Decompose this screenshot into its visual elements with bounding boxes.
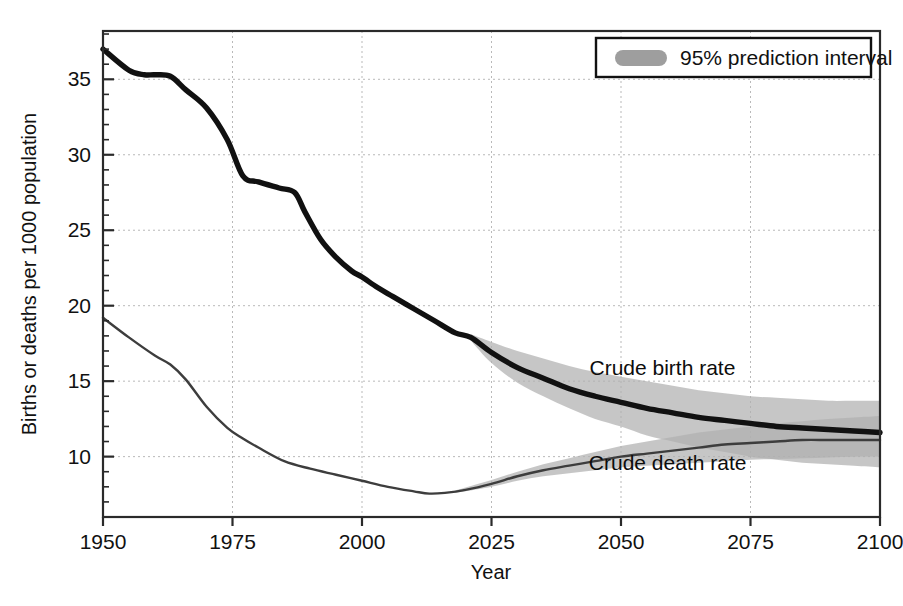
x-axis-title: Year [471, 561, 512, 583]
y-tick-label: 15 [68, 369, 91, 392]
x-tick-label: 1975 [209, 530, 256, 553]
x-tick-label: 1950 [80, 530, 127, 553]
legend-label-prediction-interval: 95% prediction interval [680, 46, 892, 69]
y-tick-label: 10 [68, 445, 91, 468]
y-axis-title: Births or deaths per 1000 population [18, 113, 40, 435]
chart-background [0, 0, 903, 606]
crude-birth-death-rate-chart: 1950197520002025205020752100 10152025303… [0, 0, 903, 606]
annotation-crude-death-rate: Crude death rate [589, 451, 747, 474]
annotation-crude-birth-rate: Crude birth rate [589, 356, 735, 379]
legend: 95% prediction interval [596, 38, 892, 77]
legend-swatch-prediction-interval [615, 50, 667, 66]
y-tick-label: 20 [68, 294, 91, 317]
y-tick-label: 25 [68, 218, 91, 241]
chart-container: 1950197520002025205020752100 10152025303… [0, 0, 903, 606]
x-tick-label: 2075 [727, 530, 774, 553]
y-tick-label: 35 [68, 67, 91, 90]
x-tick-label: 2100 [857, 530, 903, 553]
x-tick-label: 2025 [468, 530, 515, 553]
y-tick-label: 30 [68, 143, 91, 166]
x-tick-label: 2050 [598, 530, 645, 553]
x-tick-label: 2000 [339, 530, 386, 553]
